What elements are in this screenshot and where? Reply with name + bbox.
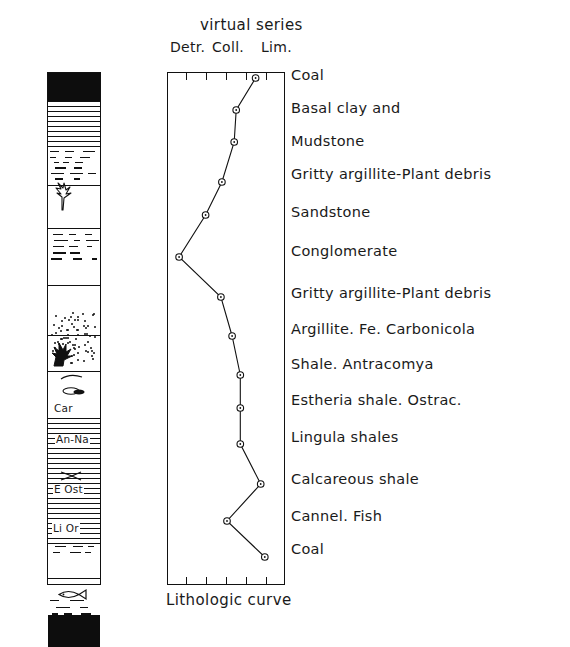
lith-unit-coal-bottom [48,615,100,647]
lith-dash [73,546,83,547]
axis-label-coll: Coll. [212,39,244,55]
lithology-column: Car An-Na E Ost Li Or [47,72,101,585]
sandstone-grain [55,332,57,334]
lith-unit-shale-laminated [48,101,100,147]
plant-debris-glyph-lower [50,339,74,367]
axis-tick-bottom [246,577,247,584]
strat-label-basal-clay: Basal clay and [291,100,400,116]
lith-dash [69,234,76,235]
ostracod-glyph [59,470,83,482]
strat-label-argillite-carbonicola: Argillite. Fe. Carbonicola [291,321,475,337]
lith-unit-mudstone [48,147,100,185]
axis-tick-top [266,73,267,80]
sandstone-grain [78,346,80,348]
sandstone-grain [87,351,89,353]
plant-debris-glyph-upper [51,181,73,211]
sandstone-grain [68,319,70,321]
lith-dash [87,246,92,247]
sandstone-grain [55,315,57,317]
strat-label-shale-antracomya: Shale. Antracomya [291,356,434,372]
lith-dash [53,252,66,253]
axis-tick-top [246,73,247,80]
lith-dash [50,151,59,152]
axis-tick-bottom [206,577,207,584]
axis-label-lim: Lim. [261,39,292,55]
strat-label-gritty-argillite-lower: Gritty argillite-Plant debris [291,285,491,301]
strat-label-gritty-argillite-upper: Gritty argillite-Plant debris [291,166,491,182]
lith-dash [83,151,95,152]
sandstone-grain [60,330,62,332]
strat-label-coal-bottom: Coal [291,541,324,557]
axis-tick-top [206,73,207,80]
lith-dash [53,234,63,235]
lith-dash [88,173,95,174]
lith-dash [74,240,80,241]
lith-inner-label-anna: An-Na [55,434,90,445]
sandstone-grain [70,316,72,318]
lith-dash [92,258,97,259]
lith-dash [54,162,59,163]
lith-dash [51,173,64,174]
sandstone-grain [94,326,96,328]
lith-dash [51,258,63,259]
strat-label-mudstone: Mudstone [291,133,365,149]
sandstone-grain [75,338,77,340]
sandstone-grain [94,336,96,338]
lith-dash [56,607,70,608]
sandstone-grain [84,320,86,322]
sandstone-grain [91,355,93,357]
sandstone-grain [83,360,85,362]
sandstone-grain [93,313,95,315]
lith-dash [55,178,63,179]
sandstone-grain [67,329,69,331]
sandstone-grain [82,313,84,315]
sandstone-grain [84,344,86,346]
sandstone-grain [93,352,95,354]
lith-inner-label-lior: Li Or [52,523,80,534]
lith-dash [50,157,55,158]
chart-caption: Lithologic curve [166,591,292,609]
axis-tick-bottom [226,577,227,584]
sandstone-grain [77,352,79,354]
sandstone-grain [58,327,60,329]
lith-dash [65,151,74,152]
strat-label-cannel-fish: Cannel. Fish [291,508,382,524]
sandstone-grain [74,319,76,321]
shell-glyph-antracomya [60,373,84,382]
sandstone-grain [71,323,73,325]
lith-dash [70,173,84,174]
sandstone-grain [72,312,74,314]
strat-label-conglomerate: Conglomerate [291,243,397,259]
lithologic-curve-plot [167,72,285,585]
sandstone-grain [64,317,66,319]
sandstone-grain [73,326,75,328]
axis-tick-bottom [266,577,267,584]
lith-dash [86,240,99,241]
axis-label-detr: Detr. [170,39,205,55]
lith-dash [55,167,66,168]
figure-canvas: virtual series Detr. Coll. Lim. Litholog… [0,0,570,647]
lith-dash [65,157,72,158]
lith-dash [74,167,82,168]
lith-dash [85,234,92,235]
sandstone-grain [92,358,94,360]
lith-dash [53,552,59,553]
axis-tick-bottom [186,577,187,584]
strat-label-estheria-shale: Estheria shale. Ostrac. [291,392,462,408]
fish-glyph-cannel [57,588,87,601]
axis-tick-top [226,73,227,80]
strat-label-coal-top: Coal [291,67,324,83]
sandstone-grain [87,325,89,327]
sandstone-grain [87,341,89,343]
sandstone-grain [85,327,87,329]
sandstone-grain [77,359,79,361]
axis-tick-top [186,73,187,80]
lith-dash [55,546,66,547]
lith-dash [74,178,80,179]
sandstone-grain [77,316,79,318]
sandstone-grain [77,319,79,321]
lith-dash [69,246,77,247]
sandstone-grain [90,347,92,349]
lith-unit-gritty-argillite-upper [48,223,100,266]
sandstone-grain [53,324,55,326]
